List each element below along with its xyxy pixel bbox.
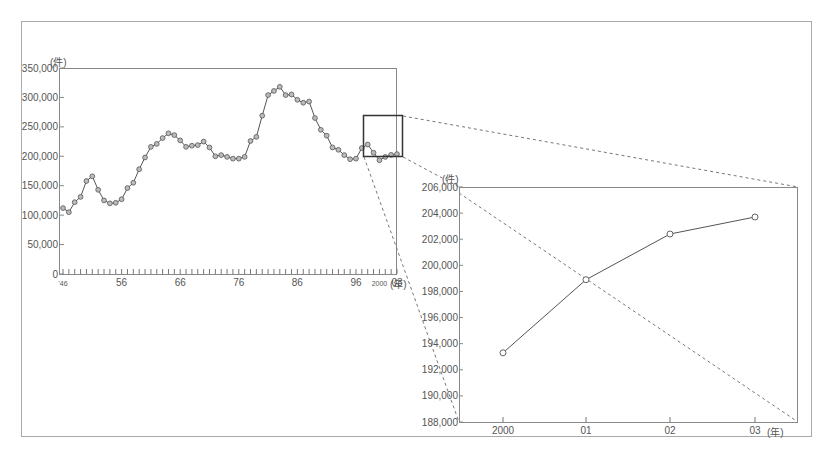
- main-chart: (件) 050,000100,000150,000200,000250,0003…: [22, 57, 407, 290]
- inset-y-tick-label: 204,000: [422, 208, 459, 219]
- main-y-tick-label: 150,000: [22, 180, 59, 191]
- main-data-point: [107, 201, 112, 206]
- main-data-point: [219, 153, 224, 158]
- main-data-point: [90, 174, 95, 179]
- main-data-point: [113, 200, 118, 205]
- main-data-point: [248, 139, 253, 144]
- main-data-point: [354, 156, 359, 161]
- inset-y-tick-label: 196,000: [422, 312, 459, 323]
- inset-y-tick-label: 200,000: [422, 260, 459, 271]
- main-data-point: [102, 198, 107, 203]
- main-data-point: [137, 167, 142, 172]
- main-data-point: [231, 156, 236, 161]
- main-data-point: [84, 179, 89, 184]
- main-y-tick-label: 350,000: [22, 63, 59, 74]
- inset-chart: (件) 188,000190,000192,000194,000196,0001…: [422, 174, 798, 438]
- main-data-point: [254, 134, 259, 139]
- main-x-tick-label: '46: [58, 280, 67, 287]
- main-data-point: [301, 100, 306, 105]
- main-data-point: [289, 92, 294, 97]
- main-y-tick-label: 100,000: [22, 210, 59, 221]
- main-data-point: [324, 133, 329, 138]
- inset-series-markers: [500, 214, 758, 356]
- inset-x-tick-label: 2000: [492, 425, 515, 436]
- inset-y-tick-label: 202,000: [422, 234, 459, 245]
- main-y-tick-label: 300,000: [22, 92, 59, 103]
- inset-y-tick-label: 188,000: [422, 417, 459, 428]
- main-data-point: [166, 131, 171, 136]
- main-data-point: [272, 89, 277, 94]
- connector-line-top: [403, 116, 798, 187]
- main-data-point: [295, 97, 300, 102]
- inset-y-tick-label: 194,000: [422, 338, 459, 349]
- main-data-point: [143, 155, 148, 160]
- main-data-point: [184, 144, 189, 149]
- inset-y-tick-label: 206,000: [422, 182, 459, 193]
- inset-y-axis: 188,000190,000192,000194,000196,000198,0…: [422, 182, 463, 428]
- main-data-point: [96, 187, 101, 192]
- main-data-point: [154, 142, 159, 147]
- main-data-point: [207, 145, 212, 150]
- inset-data-point: [500, 350, 506, 356]
- main-series-markers: [61, 84, 400, 214]
- main-x-tick-label: 86: [292, 277, 304, 288]
- main-data-point: [72, 200, 77, 205]
- main-data-point: [318, 127, 323, 132]
- inset-y-tick-label: 198,000: [422, 286, 459, 297]
- main-y-tick-label: 200,000: [22, 151, 59, 162]
- main-x-unit-label: (年): [390, 278, 407, 290]
- inset-plot-frame: [460, 188, 798, 423]
- inset-data-point: [583, 277, 589, 283]
- inset-x-unit-label: (年): [767, 426, 784, 438]
- main-data-point: [266, 93, 271, 98]
- inset-x-axis: 2000010203: [492, 417, 761, 436]
- main-x-axis: '465666768696200003: [58, 269, 403, 288]
- main-data-point: [172, 133, 177, 138]
- main-data-point: [242, 154, 247, 159]
- main-data-point: [236, 156, 241, 161]
- inset-y-tick-label: 192,000: [422, 364, 459, 375]
- main-data-point: [342, 153, 347, 158]
- inset-data-point: [752, 214, 758, 220]
- connector-line-diagonal: [459, 193, 798, 422]
- main-data-point: [119, 197, 124, 202]
- inset-data-point: [667, 231, 673, 237]
- main-data-point: [201, 139, 206, 144]
- main-data-point: [78, 194, 83, 199]
- main-data-point: [330, 145, 335, 150]
- main-data-point: [195, 143, 200, 148]
- main-data-point: [190, 143, 195, 148]
- main-data-point: [348, 157, 353, 162]
- inset-x-tick-label: 03: [749, 425, 761, 436]
- main-data-point: [160, 136, 165, 141]
- main-data-point: [61, 206, 66, 211]
- main-data-point: [148, 144, 153, 149]
- main-data-point: [283, 93, 288, 98]
- main-x-tick-label: 66: [175, 277, 187, 288]
- main-plot-frame: [60, 69, 397, 275]
- main-data-point: [371, 150, 376, 155]
- main-data-point: [125, 186, 130, 191]
- main-data-point: [260, 113, 265, 118]
- main-x-tick-label: 96: [350, 277, 362, 288]
- main-data-point: [277, 84, 282, 89]
- main-y-tick-label: 0: [52, 269, 58, 280]
- main-data-point: [131, 180, 136, 185]
- inset-x-tick-label: 01: [580, 425, 592, 436]
- main-y-axis: 050,000100,000150,000200,000250,000300,0…: [22, 63, 64, 280]
- inset-y-tick-label: 190,000: [422, 390, 459, 401]
- inset-x-tick-label: 02: [664, 425, 676, 436]
- main-y-tick-label: 250,000: [22, 121, 59, 132]
- main-series-line: [63, 87, 397, 212]
- inset-series-line: [503, 217, 755, 353]
- main-x-tick-label: 76: [233, 277, 245, 288]
- main-data-point: [365, 142, 370, 147]
- main-data-point: [313, 116, 318, 121]
- main-y-tick-label: 50,000: [27, 239, 58, 250]
- main-data-point: [225, 154, 230, 159]
- main-data-point: [66, 210, 71, 215]
- main-x-tick-label: 2000: [372, 280, 388, 287]
- main-data-point: [307, 99, 312, 104]
- chart-canvas: (件) 050,000100,000150,000200,000250,0003…: [0, 0, 831, 450]
- main-data-point: [377, 158, 382, 163]
